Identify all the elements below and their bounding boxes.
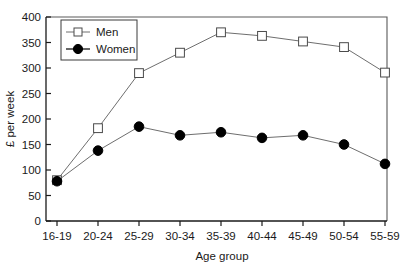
x-axis-title: Age group (195, 250, 248, 262)
y-tick-label: 200 (22, 113, 41, 125)
y-tick-label: 150 (22, 139, 41, 151)
data-point-marker-filled-circle (380, 159, 390, 169)
chart-legend: Men Women (61, 20, 137, 60)
data-point-marker-filled-circle (298, 131, 308, 141)
data-point-marker-open-square (299, 37, 308, 46)
x-tick-label: 55-59 (370, 230, 399, 242)
data-point-marker-open-square (94, 124, 103, 133)
x-tick-label: 35-39 (206, 230, 235, 242)
legend-marker-open-square-icon (74, 28, 82, 36)
y-tick-label: 0 (35, 215, 41, 227)
x-tick-label: 20-24 (83, 230, 113, 242)
legend-entry-women: Women (66, 43, 135, 55)
data-point-marker-open-square (135, 69, 144, 78)
legend-marker-filled-circle-icon (73, 44, 82, 53)
data-point-marker-open-square (217, 28, 226, 37)
data-point-marker-open-square (258, 31, 267, 40)
y-tick-label: 350 (22, 37, 41, 49)
x-axis-tick-labels: 16-19 20-24 25-29 30-34 35-39 40-44 45-4… (42, 230, 399, 242)
x-tick-label: 25-29 (124, 230, 153, 242)
x-tick-label: 45-49 (288, 230, 317, 242)
x-tick-label: 50-54 (329, 230, 359, 242)
data-point-marker-filled-circle (134, 122, 144, 132)
y-tick-label: 250 (22, 88, 41, 100)
data-point-marker-filled-circle (216, 127, 226, 137)
data-point-marker-filled-circle (339, 140, 349, 150)
data-point-marker-filled-circle (175, 131, 185, 141)
line-chart: 0 50 100 150 200 250 300 350 400 £ per w… (0, 0, 412, 266)
chart-figure: 0 50 100 150 200 250 300 350 400 £ per w… (0, 0, 412, 266)
data-point-marker-filled-circle (257, 133, 267, 143)
data-point-marker-filled-circle (52, 176, 62, 186)
y-axis-title: £ per week (4, 91, 16, 148)
data-point-marker-open-square (381, 68, 390, 77)
y-tick-label: 100 (22, 164, 41, 176)
data-point-marker-open-square (176, 48, 185, 57)
data-point-marker-open-square (340, 43, 349, 52)
x-tick-label: 40-44 (247, 230, 277, 242)
y-tick-label: 400 (22, 11, 41, 23)
legend-label-women: Women (96, 43, 135, 55)
y-tick-label: 300 (22, 62, 41, 74)
x-tick-label: 30-34 (165, 230, 195, 242)
legend-label-men: Men (96, 26, 118, 38)
x-tick-label: 16-19 (42, 230, 71, 242)
y-tick-label: 50 (28, 190, 41, 202)
data-point-marker-filled-circle (93, 146, 103, 156)
